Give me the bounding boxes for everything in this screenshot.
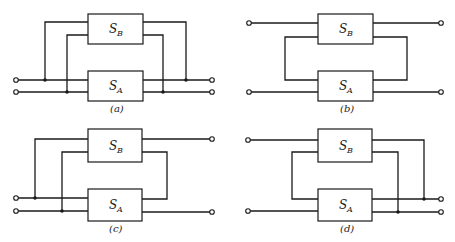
label-s: S [109,22,117,36]
box-s-a: S A [88,189,142,221]
label-s: S [109,79,117,93]
terminal [14,209,19,214]
junction-dot [161,90,165,94]
terminal [247,21,252,26]
label-s: S [339,79,347,93]
label-s: S [109,139,117,153]
panel-c: S B S A (c) [14,129,215,234]
junction-dot [33,196,37,200]
label-subscript: B [346,29,353,38]
label-s: S [109,198,117,212]
box-s-a: S A [318,71,373,101]
label-subscript: A [346,86,353,95]
caption-a: (a) [110,103,124,114]
box-s-a: S A [88,71,143,101]
box-s-b: S B [318,14,373,44]
terminal [247,90,252,95]
box-s-b: S B [88,129,142,162]
terminal [210,90,215,95]
terminal [246,209,251,214]
label-subscript: A [116,205,123,214]
junction-dot [184,78,188,82]
terminal [14,90,19,95]
terminal [210,210,215,215]
label-s: S [339,22,347,36]
two-port-interconnection-figure: S B S A (a) S B S [0,0,455,242]
panel-a: S B S A (a) [14,14,215,114]
junction-dot [60,209,64,213]
panel-b: S B S A (b) [247,14,444,114]
caption-b: (b) [340,103,354,114]
label-subscript: B [116,146,123,155]
terminal [439,90,444,95]
panel-d: S B S A (d) [246,129,444,234]
box-s-b: S B [318,129,372,162]
terminal [210,137,215,142]
junction-dot [396,210,400,214]
label-subscript: B [116,29,123,38]
junction-dot [422,197,426,201]
label-s: S [339,198,347,212]
label-subscript: A [346,205,353,214]
junction-dot [65,90,69,94]
terminal [439,197,444,202]
box-s-b: S B [88,14,143,44]
caption-c: (c) [109,223,123,234]
caption-d: (d) [340,223,354,234]
terminal [14,196,19,201]
label-subscript: B [346,146,353,155]
label-s: S [339,139,347,153]
terminal [210,78,215,83]
junction-dot [43,78,47,82]
terminal [14,78,19,83]
box-s-a: S A [318,189,372,221]
terminal [439,21,444,26]
terminal [246,138,251,143]
label-subscript: A [116,86,123,95]
terminal [439,210,444,215]
